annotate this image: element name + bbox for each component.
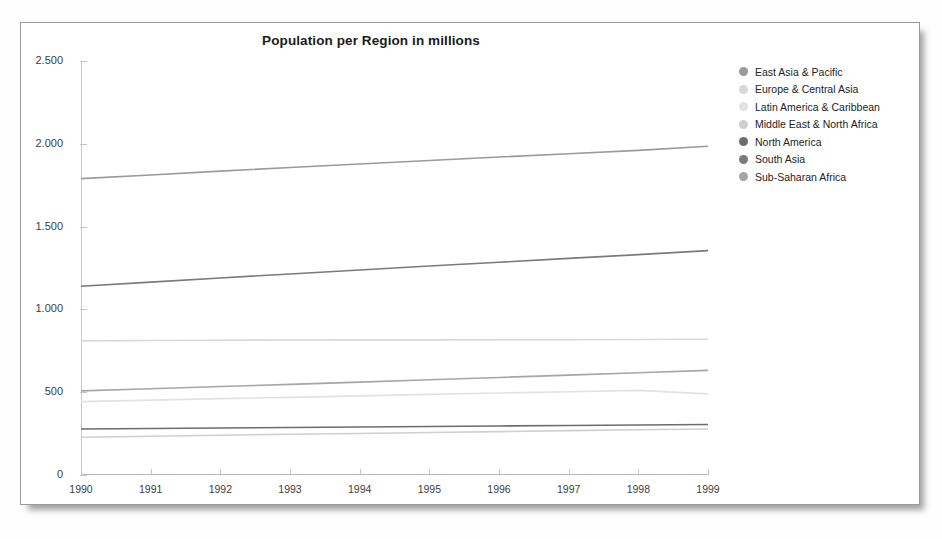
legend-marker-icon bbox=[739, 137, 748, 146]
legend-marker-icon bbox=[739, 102, 748, 111]
y-tick-label: 0 bbox=[0, 468, 63, 480]
chart-card: Population per Region in millions 05001.… bbox=[20, 22, 920, 505]
x-tick-label: 1992 bbox=[190, 483, 250, 495]
legend-item[interactable]: Latin America & Caribbean bbox=[739, 98, 919, 116]
y-tick-label: 2.000 bbox=[0, 137, 63, 149]
y-tick-label: 2.500 bbox=[0, 54, 63, 66]
legend-label: Europe & Central Asia bbox=[755, 83, 858, 95]
x-tick-label: 1997 bbox=[539, 483, 599, 495]
x-tick-label: 1994 bbox=[330, 483, 390, 495]
legend-item[interactable]: East Asia & Pacific bbox=[739, 63, 919, 81]
legend-marker-icon bbox=[739, 120, 748, 129]
chart-screenshot: Population per Region in millions 05001.… bbox=[0, 0, 942, 539]
series-line bbox=[81, 370, 708, 391]
legend-item[interactable]: Middle East & North Africa bbox=[739, 116, 919, 134]
series-line bbox=[81, 424, 708, 428]
x-tick-label: 1993 bbox=[260, 483, 320, 495]
x-tick-label: 1998 bbox=[608, 483, 668, 495]
plot-area: 05001.0001.5002.0002.500 199019911992199… bbox=[81, 61, 708, 475]
legend-item[interactable]: Europe & Central Asia bbox=[739, 81, 919, 99]
series-lines bbox=[81, 61, 708, 475]
legend-label: East Asia & Pacific bbox=[755, 66, 843, 78]
legend-marker-icon bbox=[739, 85, 748, 94]
x-tick-label: 1990 bbox=[51, 483, 111, 495]
series-line bbox=[81, 146, 708, 178]
legend-label: Sub-Saharan Africa bbox=[755, 171, 846, 183]
x-tick bbox=[708, 469, 709, 475]
series-line bbox=[81, 339, 708, 341]
y-tick-label: 1.500 bbox=[0, 220, 63, 232]
y-tick bbox=[80, 475, 87, 476]
chart-legend: East Asia & PacificEurope & Central Asia… bbox=[739, 63, 919, 186]
x-tick-label: 1996 bbox=[469, 483, 529, 495]
x-tick-label: 1999 bbox=[678, 483, 738, 495]
chart-title: Population per Region in millions bbox=[21, 33, 721, 48]
legend-label: Latin America & Caribbean bbox=[755, 101, 880, 113]
legend-label: North America bbox=[755, 136, 822, 148]
y-tick-label: 500 bbox=[0, 385, 63, 397]
y-tick-label: 1.000 bbox=[0, 302, 63, 314]
x-tick-label: 1995 bbox=[399, 483, 459, 495]
legend-item[interactable]: Sub-Saharan Africa bbox=[739, 168, 919, 186]
legend-item[interactable]: South Asia bbox=[739, 151, 919, 169]
legend-label: Middle East & North Africa bbox=[755, 118, 878, 130]
legend-marker-icon bbox=[739, 67, 748, 76]
series-line bbox=[81, 390, 708, 401]
legend-item[interactable]: North America bbox=[739, 133, 919, 151]
legend-marker-icon bbox=[739, 172, 748, 181]
series-line bbox=[81, 429, 708, 437]
legend-marker-icon bbox=[739, 155, 748, 164]
series-line bbox=[81, 251, 708, 287]
x-tick-label: 1991 bbox=[121, 483, 181, 495]
legend-label: South Asia bbox=[755, 153, 805, 165]
